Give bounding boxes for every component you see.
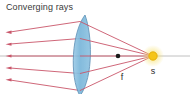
outgoing-ray: [80, 56, 153, 91]
incoming-ray-group: [10, 22, 80, 91]
focal-point-label: f: [121, 72, 124, 82]
incoming-ray: [10, 80, 80, 91]
ray-arrow-icon: [6, 55, 12, 58]
outgoing-ray: [80, 39, 153, 57]
ray-arrow-icon: [6, 66, 12, 69]
incoming-ray: [10, 68, 80, 74]
ray-arrowhead-group: [6, 31, 12, 82]
ray-arrow-icon: [6, 43, 12, 46]
outgoing-ray: [80, 22, 153, 57]
incoming-ray: [10, 39, 80, 45]
ray-arrow-icon: [6, 78, 12, 81]
source-point-marker: [149, 52, 157, 60]
converging-rays-figure: Converging rays: [0, 0, 190, 94]
outgoing-ray: [80, 56, 153, 74]
ray-diagram: f s: [0, 0, 190, 94]
incoming-ray: [10, 22, 80, 33]
converging-lens: [73, 15, 90, 94]
ray-arrow-icon: [6, 31, 12, 34]
source-point-label: s: [151, 66, 156, 76]
focal-point-dot: [116, 54, 121, 59]
